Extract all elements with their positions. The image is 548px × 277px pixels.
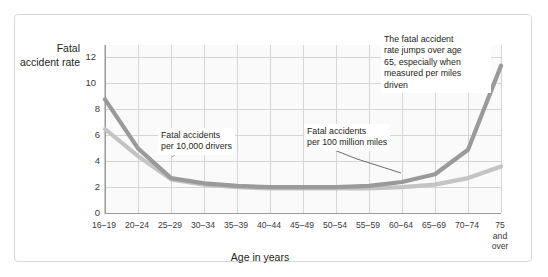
x-tick-label: 30–34 <box>189 220 217 231</box>
y-tick-label: 10 <box>74 78 96 88</box>
y-tick-label: 0 <box>78 208 100 218</box>
y-tick-label: 2 <box>78 182 100 192</box>
x-tick-label: 60–64 <box>387 220 415 231</box>
x-tick-label: 75 and over <box>486 220 514 252</box>
y-tick-label: 4 <box>78 156 100 166</box>
chart-figure: Fatal accident rate 0 2 4 6 8 10 12 <box>0 0 548 277</box>
y-tick-label: 12 <box>74 52 96 62</box>
x-tick-label: 16–19 <box>90 220 118 231</box>
x-tick-label: 70–74 <box>453 220 481 231</box>
x-tick-label: 55–59 <box>354 220 382 231</box>
x-tick-label: 65–69 <box>420 220 448 231</box>
y-tick-label: 6 <box>78 130 100 140</box>
annotation-jump: The fatal accident rate jumps over age 6… <box>381 32 491 93</box>
x-tick-label: 25–29 <box>156 220 184 231</box>
y-axis-title: Fatal accident rate <box>18 42 80 69</box>
y-tick-label: 8 <box>78 104 100 114</box>
annotation-miles: Fatal accidents per 100 million miles <box>304 124 390 151</box>
x-tick-label: 50–54 <box>321 220 349 231</box>
x-tick-label: 20–24 <box>123 220 151 231</box>
leader-line-miles-2 <box>357 159 401 173</box>
x-tick-label: 35–39 <box>222 220 250 231</box>
x-tick-label: 45–49 <box>288 220 316 231</box>
x-axis-title: Age in years <box>0 251 548 263</box>
annotation-drivers: Fatal accidents per 10,000 drivers <box>158 128 235 155</box>
x-tick-label: 40–44 <box>255 220 283 231</box>
